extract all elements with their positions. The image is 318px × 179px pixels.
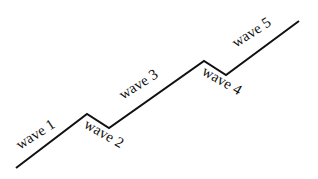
elliott-wave-diagram: wave 1 wave 2 wave 3 wave 4 wave 5 (0, 0, 318, 179)
label-wave-1: wave 1 (13, 116, 58, 153)
label-wave-4: wave 4 (200, 63, 246, 99)
wave-canvas: wave 1 wave 2 wave 3 wave 4 wave 5 (0, 0, 318, 179)
wave-path (16, 21, 299, 168)
